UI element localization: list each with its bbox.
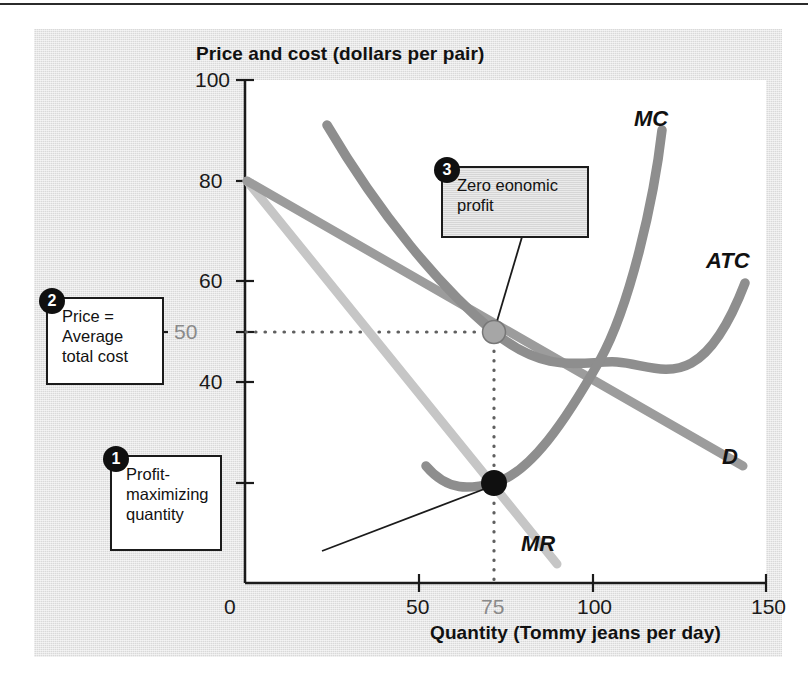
atc-curve-label: ATC <box>706 248 750 274</box>
y-axis-title: Price and cost (dollars per pair) <box>196 43 484 65</box>
callout-zero-economic-profit: Zero eonomic profit <box>441 166 589 238</box>
x-tick-label-50: 50 <box>406 595 429 619</box>
y-tick-label-50: 50 <box>174 320 197 344</box>
x-tick-label-75: 75 <box>481 595 504 619</box>
y-tick-label-40: 40 <box>199 370 222 394</box>
mc-curve-label: MC <box>634 106 668 132</box>
mr-curve-label: MR <box>521 531 555 557</box>
x-tick-label-100: 100 <box>577 595 612 619</box>
y-tick-label-60: 60 <box>199 269 222 293</box>
callout-badge-2: 2 <box>39 288 65 314</box>
callout-price-equals-average-total-cost: Price = Average total cost <box>46 297 164 385</box>
y-tick-label-100: 100 <box>195 68 230 92</box>
callout-badge-3: 3 <box>434 157 460 183</box>
callout-1-leader <box>322 488 487 551</box>
callout-3-leader <box>495 237 522 328</box>
profit-maximizing-dot <box>481 470 507 496</box>
y-tick-label-80: 80 <box>199 169 222 193</box>
figure-root: Price and cost (dollars per pair) Quanti… <box>0 0 808 684</box>
price-equals-atc-dot <box>483 321 506 344</box>
demand-curve-label: D <box>722 444 738 470</box>
x-axis-title: Quantity (Tommy jeans per day) <box>430 622 721 644</box>
callout-profit-maximizing-quantity: Profit- maximizing quantity <box>110 455 222 551</box>
x-tick-label-0: 0 <box>224 595 236 619</box>
x-tick-label-150: 150 <box>751 595 786 619</box>
callout-badge-1: 1 <box>103 446 129 472</box>
